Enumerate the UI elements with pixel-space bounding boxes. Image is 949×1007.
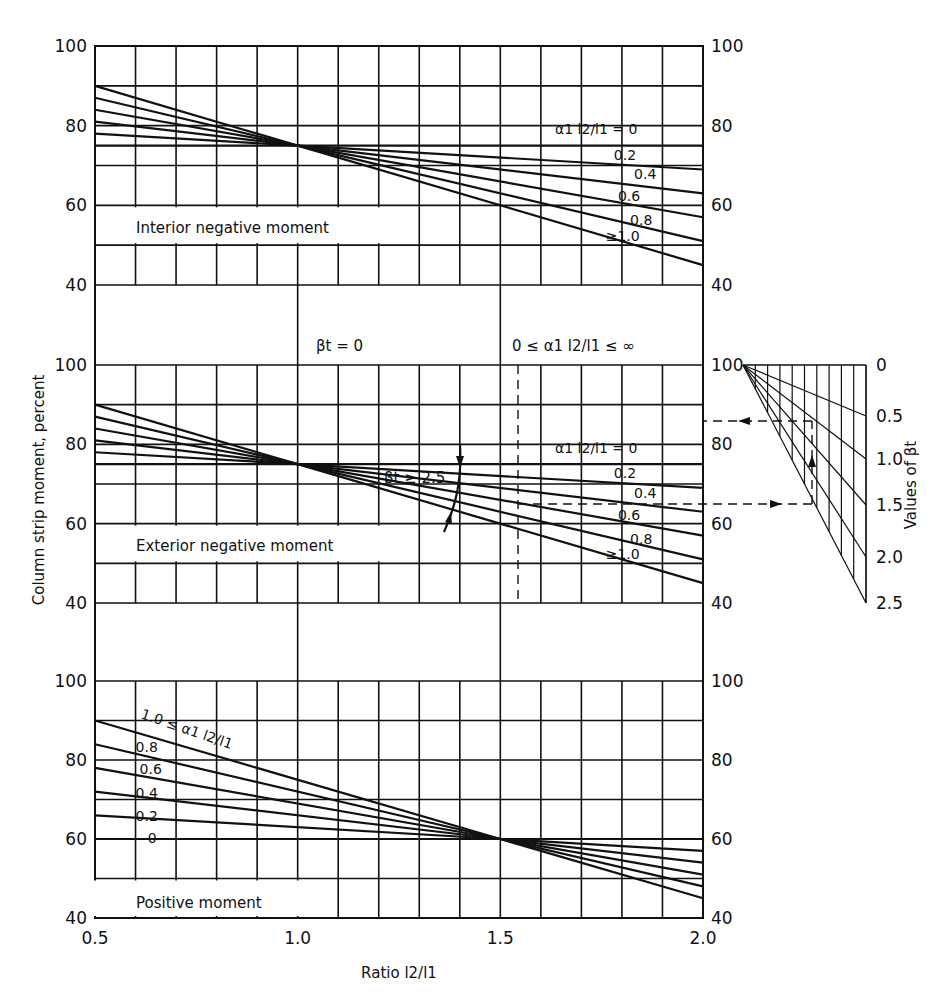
y-tick-left: 100 [55, 671, 87, 691]
x-tick: 1.5 [487, 928, 514, 948]
y-tick-right: 40 [711, 908, 733, 928]
alpha-range-annotation: 0 ≤ α1 l2/l1 ≤ ∞ [512, 337, 635, 355]
beta-tick: 1.5 [876, 495, 903, 515]
series-label: 0.8 [630, 212, 652, 228]
y-tick-right: 100 [711, 671, 743, 691]
series-label: ≥1.0 [606, 228, 640, 244]
y-tick-right: 40 [711, 593, 733, 613]
arrow-left-icon [738, 417, 750, 425]
arrow-right-icon [770, 500, 782, 508]
y-tick-right: 80 [711, 434, 733, 454]
arrow-up-icon [808, 455, 816, 467]
beta-zero-annotation: βt = 0 [316, 337, 363, 355]
y-tick-left: 100 [55, 355, 87, 375]
beta-tick: 0.5 [876, 406, 903, 426]
series-label: 0.2 [614, 465, 636, 481]
y-tick-right: 60 [711, 514, 733, 534]
series-label: 0.2 [136, 808, 158, 824]
positive-panel-label: Positive moment [136, 894, 262, 912]
y-tick-left: 60 [65, 195, 87, 215]
y-tick-right: 60 [711, 195, 733, 215]
series-label: ≥1.0 [606, 546, 640, 562]
y-tick-left: 60 [65, 829, 87, 849]
series-line-04 [95, 792, 703, 863]
y-tick-left: 60 [65, 514, 87, 534]
series-label: 0.6 [618, 188, 640, 204]
y-tick-right: 100 [711, 36, 743, 56]
arrow-up-icon [445, 512, 452, 524]
y-tick-right: 40 [711, 275, 733, 295]
series-label: 0.4 [634, 485, 656, 501]
series-line-10 [95, 721, 703, 899]
interior-alpha-label: α1 l2/l1 = 0 [555, 121, 637, 137]
series-line-08 [95, 744, 703, 886]
exterior-panel-label: Exterior negative moment [136, 537, 333, 555]
series-label: 0.4 [634, 166, 656, 182]
beta-tick: 0 [876, 355, 887, 375]
series-label: 0.8 [136, 739, 158, 755]
y-tick-left: 100 [55, 36, 87, 56]
y-tick-left: 40 [65, 908, 87, 928]
beta-tick: 2.5 [876, 593, 903, 613]
y-tick-left: 80 [65, 116, 87, 136]
x-tick: 0.5 [81, 928, 108, 948]
x-tick: 1.0 [284, 928, 311, 948]
x-axis-label: Ratio l2/l1 [361, 964, 437, 982]
beta-nomograph: 00.51.01.52.02.5 [743, 355, 903, 613]
column-strip-moment-chart: 4040606080801001004040606080801001004040… [0, 0, 949, 1007]
series-label: 0.6 [140, 761, 162, 777]
y-tick-left: 40 [65, 593, 87, 613]
y-tick-right: 100 [711, 355, 743, 375]
series-label: 0.6 [618, 507, 640, 523]
nomograph-axis-label: Values of βt [902, 441, 920, 530]
y-tick-right: 60 [711, 829, 733, 849]
y-tick-left: 80 [65, 434, 87, 454]
interior-panel-label: Interior negative moment [136, 219, 329, 237]
beta-tick: 1.0 [876, 449, 903, 469]
y-tick-left: 80 [65, 750, 87, 770]
y-tick-right: 80 [711, 750, 733, 770]
series-label: 0 [148, 830, 157, 846]
series-label: 0.8 [630, 531, 652, 547]
beta-tick: 2.0 [876, 547, 903, 567]
y-tick-right: 80 [711, 116, 733, 136]
arrow-down-icon [456, 456, 464, 468]
beta-ge-annotation: βt ≥ 2.5 [384, 469, 445, 487]
x-tick: 2.0 [689, 928, 716, 948]
series-label: 0.4 [136, 785, 158, 801]
series-label: 0.2 [614, 147, 636, 163]
exterior-alpha-label: α1 l2/l1 = 0 [555, 440, 637, 456]
y-tick-left: 40 [65, 275, 87, 295]
y-axis-label: Column strip moment, percent [30, 375, 48, 606]
